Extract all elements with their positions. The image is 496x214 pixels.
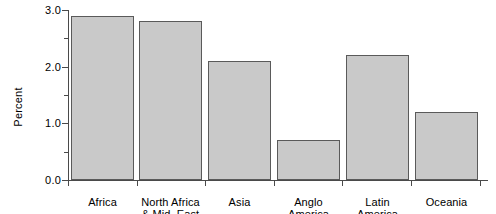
y-tick-label: 0.0 xyxy=(45,174,61,186)
x-category-label-latin-america: Latin America xyxy=(341,196,414,214)
x-tick-3 xyxy=(274,181,275,186)
y-minor-tick-0-5 xyxy=(64,152,68,153)
y-minor-tick-1-5 xyxy=(64,95,68,96)
x-category-label-line1: Asia xyxy=(229,196,251,208)
x-category-label-line2: & Mid. East xyxy=(134,208,207,214)
y-tick-label: 3.0 xyxy=(45,4,61,16)
x-tick-0 xyxy=(68,181,69,186)
y-minor-tick-2-5 xyxy=(64,38,68,39)
bar-chart: Percent 3.0 2.0 1.0 0.0 xyxy=(0,0,496,214)
bar-oceania xyxy=(415,112,478,180)
x-category-label-oceania: Oceania xyxy=(410,196,483,208)
y-axis-line xyxy=(68,10,69,181)
y-axis-label-text: Percent xyxy=(12,87,24,126)
bar-asia xyxy=(208,61,271,180)
bar-africa xyxy=(71,16,134,180)
x-category-label-line1: North Africa xyxy=(141,196,200,208)
x-category-label-africa: Africa xyxy=(66,196,139,208)
x-category-label-line2: America xyxy=(272,208,345,214)
x-category-label-anglo-america: Anglo America xyxy=(272,196,345,214)
x-category-label-line1: Africa xyxy=(88,196,117,208)
x-category-label-line2: America xyxy=(341,208,414,214)
y-tick-mark xyxy=(62,67,68,68)
x-tick-4 xyxy=(342,181,343,186)
y-tick-mark xyxy=(62,123,68,124)
x-category-label-line1: Oceania xyxy=(426,196,468,208)
x-tick-6 xyxy=(480,181,481,186)
x-category-label-asia: Asia xyxy=(203,196,276,208)
x-axis-line xyxy=(68,180,488,181)
y-tick-label: 1.0 xyxy=(45,117,61,129)
x-tick-2 xyxy=(205,181,206,186)
plot-area: 3.0 2.0 1.0 0.0 xyxy=(68,10,488,181)
y-tick-label: 2.0 xyxy=(45,61,61,73)
x-category-label-line1: Anglo xyxy=(294,196,323,208)
y-tick-mark xyxy=(62,10,68,11)
x-tick-5 xyxy=(411,181,412,186)
y-tick-group-2: 2.0 xyxy=(68,67,69,68)
bar-anglo-america xyxy=(277,140,340,180)
x-tick-1 xyxy=(137,181,138,186)
bar-north-africa-mid-east xyxy=(139,21,202,180)
y-tick-group-1: 1.0 xyxy=(68,123,69,124)
y-tick-group-3: 3.0 xyxy=(68,10,69,11)
bar-latin-america xyxy=(346,55,409,180)
x-category-label-line1: Latin xyxy=(365,196,389,208)
x-category-label-north-africa-mid-east: North Africa & Mid. East xyxy=(134,196,207,214)
y-axis-label: Percent xyxy=(6,0,30,214)
